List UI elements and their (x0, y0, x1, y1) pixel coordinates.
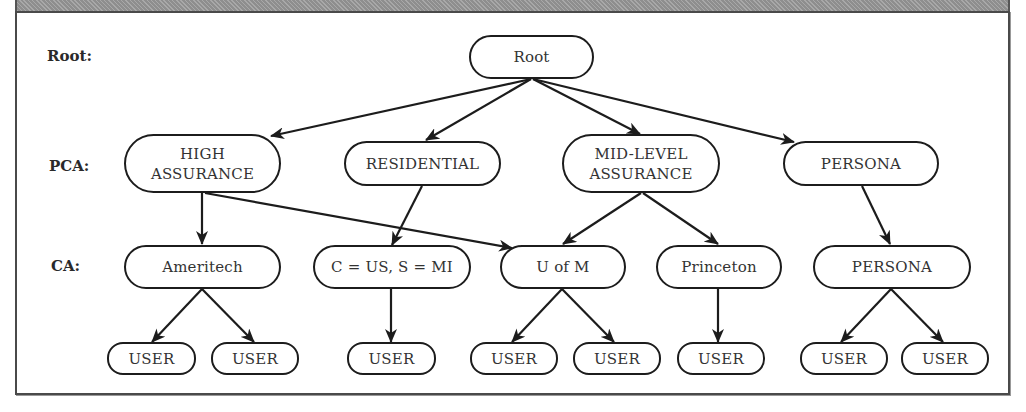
node-ca-persona-label: PERSONA (852, 257, 932, 277)
node-root-label: Root (513, 47, 549, 67)
node-ca-u-of-m-label: U of M (536, 257, 589, 277)
node-pca-persona-label: PERSONA (821, 154, 901, 174)
node-ca-u-of-m[interactable]: U of M (500, 245, 626, 289)
node-pca-mid-level-assurance[interactable]: MID-LEVEL ASSURANCE (562, 134, 720, 193)
node-root[interactable]: Root (469, 35, 594, 79)
node-user-4-label: USER (491, 349, 537, 369)
edge-root-midlevel (533, 79, 640, 134)
edge-midlevel-uofm (563, 193, 641, 244)
edge-root-high (271, 79, 531, 136)
node-user-7-label: USER (821, 349, 867, 369)
node-pca-high-assurance[interactable]: HIGH ASSURANCE (124, 134, 281, 193)
node-ca-c-us-s-mi[interactable]: C = US, S = MI (313, 245, 471, 289)
node-user-2-label: USER (232, 349, 278, 369)
node-ca-princeton-label: Princeton (681, 257, 757, 277)
edge-persona-user7 (841, 289, 891, 342)
node-ca-ameritech-label: Ameritech (162, 257, 243, 277)
edge-persona-user8 (891, 289, 943, 342)
edge-root-persona (533, 79, 794, 142)
node-user-2[interactable]: USER (211, 342, 299, 375)
row-label-pca: PCA: (49, 157, 89, 175)
node-user-1-label: USER (129, 349, 175, 369)
node-ca-princeton[interactable]: Princeton (656, 245, 782, 289)
node-user-8-label: USER (922, 349, 968, 369)
row-label-ca: CA: (51, 257, 80, 275)
node-pca-mid-level-assurance-label: MID-LEVEL ASSURANCE (589, 144, 692, 184)
node-ca-persona[interactable]: PERSONA (813, 245, 971, 289)
node-user-7[interactable]: USER (800, 342, 888, 375)
edge-ameritech-user2 (202, 289, 254, 342)
edge-persona-persona (862, 186, 890, 244)
edge-root-residential (426, 79, 531, 140)
row-label-root: Root: (47, 47, 92, 65)
edge-high-uofm (205, 193, 512, 248)
node-user-3-label: USER (369, 349, 415, 369)
node-ca-ameritech[interactable]: Ameritech (124, 245, 281, 289)
node-user-6-label: USER (698, 349, 744, 369)
node-pca-residential-label: RESIDENTIAL (366, 154, 479, 174)
node-pca-persona[interactable]: PERSONA (783, 141, 939, 186)
edge-residential-cus (392, 186, 422, 245)
node-pca-high-assurance-label: HIGH ASSURANCE (151, 144, 254, 184)
node-user-5-label: USER (594, 349, 640, 369)
node-user-4[interactable]: USER (470, 342, 558, 375)
edge-uofm-user5 (562, 289, 614, 342)
edge-uofm-user4 (512, 289, 562, 342)
edge-midlevel-princeton (643, 193, 718, 244)
node-user-8[interactable]: USER (901, 342, 989, 375)
node-user-3[interactable]: USER (347, 342, 436, 375)
edge-ameritech-user1 (152, 289, 202, 342)
node-user-5[interactable]: USER (573, 342, 661, 375)
node-ca-c-us-s-mi-label: C = US, S = MI (331, 257, 453, 277)
node-pca-residential[interactable]: RESIDENTIAL (344, 141, 501, 186)
node-user-1[interactable]: USER (107, 342, 196, 375)
node-user-6[interactable]: USER (677, 342, 765, 375)
